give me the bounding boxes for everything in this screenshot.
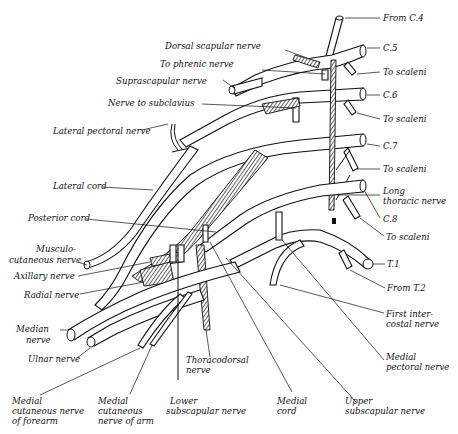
label-medial-cord-line2: cord [277, 406, 297, 416]
label-radial: Radial nerve [24, 290, 79, 300]
label-med-cut-arm-line3: nerve of arm [98, 416, 154, 426]
label-lower-subscapular-line2: subscapular nerve [166, 406, 246, 416]
label-lateral-pectoral: Lateral pectoral nerve [53, 126, 151, 136]
label-med-cut-forearm-line1: Medial [12, 396, 42, 406]
label-t1: T.1 [387, 259, 400, 269]
label-suprascapular: Suprascapular nerve [116, 76, 207, 86]
label-medial-cord-line1: Medial [277, 396, 307, 406]
label-c6: C.6 [383, 90, 397, 100]
label-med-cut-forearm-line3: of forearm [12, 416, 58, 426]
label-posterior-cord: Posterior cord [28, 213, 90, 223]
label-med-cut-arm-line2: cutaneous [98, 406, 143, 416]
label-median-line1: Median [16, 324, 49, 334]
label-med-cut-forearm-line2: cutaneous nerve [12, 406, 84, 416]
label-lateral-cord: Lateral cord [53, 181, 107, 191]
label-axillary: Axillary nerve [14, 271, 75, 281]
label-to-scaleni-1: To scaleni [383, 67, 426, 77]
label-to-scaleni-2: To scaleni [383, 114, 426, 124]
label-long-thoracic-line2: thoracic nerve [383, 196, 446, 206]
label-nerve-to-subclavius: Nerve to subclavius [108, 98, 194, 108]
label-musculocutaneous-line2: cutaneous nerve [9, 255, 81, 265]
label-first-intercostal-line2: costal nerve [386, 319, 439, 329]
label-from-c4: From C.4 [383, 13, 424, 23]
label-lower-subscapular-line1: Lower [170, 396, 197, 406]
label-long-thoracic-line1: Long [383, 186, 405, 196]
label-medial-pectoral-line1: Medial [386, 352, 416, 362]
label-to-scaleni-4: To scaleni [386, 232, 429, 242]
label-c7: C.7 [383, 141, 397, 151]
label-from-t2: From T.2 [387, 283, 426, 293]
label-first-intercostal-line1: First inter- [386, 309, 433, 319]
label-upper-subscapular-line1: Upper [345, 396, 372, 406]
label-med-cut-arm-line1: Medial [98, 396, 128, 406]
label-ulnar: Ulnar nerve [28, 354, 80, 364]
label-thoracodorsal-line2: nerve [186, 365, 211, 375]
label-medial-pectoral-line2: pectoral nerve [386, 362, 449, 372]
label-to-phrenic: To phrenic nerve [160, 59, 234, 69]
label-dorsal-scapular: Dorsal scapular nerve [165, 41, 261, 51]
label-to-scaleni-3: To scaleni [383, 164, 426, 174]
label-c5: C.5 [383, 43, 397, 53]
label-c8: C.8 [383, 214, 397, 224]
label-upper-subscapular-line2: subscapular nerve [345, 406, 425, 416]
label-musculocutaneous-line1: Musculo- [20, 244, 76, 254]
label-thoracodorsal-line1: Thoracodorsal [186, 355, 249, 365]
label-median-line2: nerve [26, 335, 51, 345]
brachial-plexus-diagram: From C.4 C.5 To scaleni C.6 To scaleni C… [0, 0, 458, 434]
